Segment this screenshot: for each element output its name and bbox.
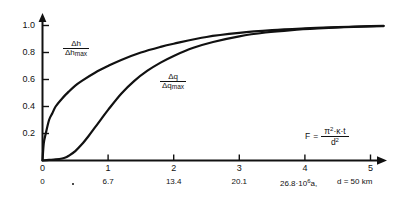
x-axis-units-mantissa: 26.8·10 (280, 179, 307, 188)
x-tick-label-4: 4 (296, 164, 314, 173)
formula-denominator: d2 (321, 137, 349, 147)
x-tick-label-5: 5 (362, 164, 380, 173)
y-tick-label-1: 1.0 (13, 21, 35, 30)
formula-fraction: π2·κ·t d2 (321, 126, 349, 147)
x-tick2-label-3: 20.1 (219, 178, 259, 186)
x-tick-label-3: 3 (230, 164, 248, 173)
curve-label-delta-h: Δh Δhmax (63, 40, 89, 58)
y-tick-label-4: 0.4 (13, 102, 35, 111)
x-tick2-label-2: 13.4 (154, 178, 194, 186)
y-tick-label-3: 0.6 (13, 75, 35, 84)
curve-label-delta-q: Δq Δqmax (160, 73, 186, 91)
curve-label-h-denominator-base: Δh (65, 48, 75, 57)
curve-label-h-denominator-sub: max (75, 50, 87, 57)
x-tick2-label-0: 0 (23, 178, 63, 186)
formula-denominator-exponent: 2 (336, 137, 339, 143)
y-tick-label-5: 0.2 (13, 129, 35, 138)
curve-label-q-denominator-sub: max (172, 83, 184, 90)
depth-note: d = 50 km (337, 178, 372, 186)
chart-figure: 1.0 0.8 0.6 0.4 0.2 0 1 2 3 4 5 0 6.7 13… (0, 0, 405, 201)
chart-canvas (0, 0, 405, 201)
axis-formula: F = π2·κ·t d2 (305, 126, 349, 147)
formula-numerator-rest: ·κ·t (333, 126, 345, 136)
x-axis-units-note: 26.8·106a, (280, 178, 317, 188)
curve-label-q-denominator-base: Δq (162, 81, 172, 90)
formula-numerator: π2·κ·t (321, 126, 349, 137)
curve-label-h-denominator: Δhmax (63, 49, 89, 58)
x-tick-label-0: 0 (34, 164, 52, 173)
formula-lhs: F (305, 132, 310, 141)
x-tick-label-2: 2 (165, 164, 183, 173)
y-axis-arrow (39, 13, 47, 22)
y-tick-label-2: 0.8 (13, 48, 35, 57)
x-axis-minor-dot (72, 183, 74, 185)
curve-label-q-denominator: Δqmax (160, 82, 186, 91)
formula-equals: = (313, 132, 318, 141)
x-tick2-label-1: 6.7 (88, 178, 128, 186)
x-tick-label-1: 1 (99, 164, 117, 173)
x-axis-units-suffix: a, (310, 179, 317, 188)
